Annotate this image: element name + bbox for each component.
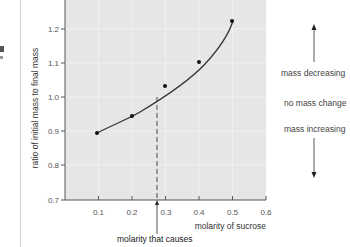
y-tick-1-2: 1.2 — [48, 25, 60, 34]
x-tick-0-3: 0.3 — [160, 208, 172, 217]
x-axis-title: molarity of sucrose — [195, 221, 267, 231]
data-point — [163, 84, 167, 88]
y-axis-title: ratio of initial mass to final mass — [30, 48, 40, 168]
pointer-arrowhead-icon — [155, 200, 159, 205]
x-tick-0-1: 0.1 — [93, 208, 105, 217]
label-molarity-that-causes: molarity that causes — [117, 234, 193, 244]
y-tick-0-7: 0.7 — [48, 196, 60, 205]
y-tick-1-1: 1.1 — [48, 59, 60, 68]
arrow-up-icon — [312, 24, 317, 30]
data-point — [197, 60, 201, 64]
y-tick-0-9: 0.9 — [48, 127, 60, 136]
x-tick-labels: 0.1 0.2 0.3 0.4 0.5 0.6 — [93, 208, 272, 217]
label-mass-decreasing: mass decreasing — [281, 68, 345, 78]
y-tick-0-8: 0.8 — [48, 161, 60, 170]
x-tick-0-6: 0.6 — [260, 208, 272, 217]
label-mass-increasing: mass increasing — [284, 124, 345, 134]
data-point — [95, 131, 99, 135]
x-tick-0-4: 0.4 — [193, 208, 205, 217]
arrow-down-icon — [312, 172, 317, 178]
y-tick-labels: 1.2 1.1 1.0 0.9 0.8 0.7 — [48, 25, 60, 205]
x-tick-0-5: 0.5 — [227, 208, 239, 217]
data-point — [230, 19, 234, 23]
y-tick-1-0: 1.0 — [48, 93, 60, 102]
data-point — [130, 114, 134, 118]
x-tick-0-2: 0.2 — [126, 208, 138, 217]
label-no-mass-change: no mass change — [284, 98, 346, 108]
